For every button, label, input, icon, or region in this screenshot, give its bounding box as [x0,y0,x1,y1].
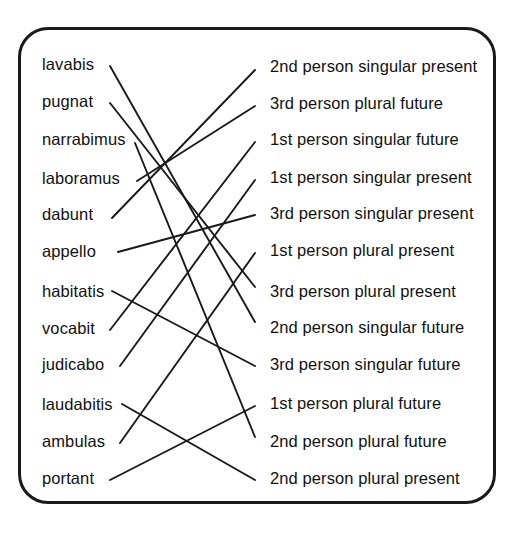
left-term-l1[interactable]: lavabis [42,56,94,73]
right-description-r12[interactable]: 2nd person plural present [270,470,460,487]
right-description-r3[interactable]: 1st person singular future [270,131,459,148]
matching-worksheet: lavabispugnatnarrabimuslaboramusdabuntap… [0,0,525,537]
right-description-r5[interactable]: 3rd person singular present [270,205,474,222]
left-column: lavabispugnatnarrabimuslaboramusdabuntap… [0,0,220,537]
right-description-r8[interactable]: 2nd person singular future [270,319,464,336]
left-term-l8[interactable]: vocabit [42,320,95,337]
left-term-l12[interactable]: portant [42,470,94,487]
left-term-l7[interactable]: habitatis [42,283,104,300]
right-description-r6[interactable]: 1st person plural present [270,242,454,259]
right-description-r11[interactable]: 2nd person plural future [270,433,447,450]
right-description-r2[interactable]: 3rd person plural future [270,95,443,112]
left-term-l3[interactable]: narrabimus [42,131,126,148]
left-term-l11[interactable]: ambulas [42,433,105,450]
right-column: 2nd person singular present3rd person pl… [262,0,512,537]
right-description-r1[interactable]: 2nd person singular present [270,58,477,75]
right-description-r7[interactable]: 3rd person plural present [270,283,456,300]
right-description-r9[interactable]: 3rd person singular future [270,356,461,373]
left-term-l6[interactable]: appello [42,243,96,260]
right-description-r4[interactable]: 1st person singular present [270,169,472,186]
left-term-l9[interactable]: judicabo [42,356,104,373]
left-term-l2[interactable]: pugnat [42,93,93,110]
left-term-l10[interactable]: laudabitis [42,396,113,413]
right-description-r10[interactable]: 1st person plural future [270,395,441,412]
left-term-l4[interactable]: laboramus [42,170,120,187]
left-term-l5[interactable]: dabunt [42,206,93,223]
